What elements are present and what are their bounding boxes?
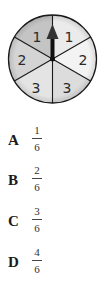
fraction-bar <box>32 219 42 220</box>
option-letter: B <box>8 172 18 189</box>
sector-label: 3 <box>63 80 72 96</box>
numerator: 1 <box>31 124 43 136</box>
option-fraction: 2 6 <box>31 164 43 193</box>
spinner-wheel-icon: 1 1 2 3 3 2 <box>0 0 105 110</box>
numerator: 4 <box>31 246 43 258</box>
denominator: 6 <box>31 181 43 193</box>
fraction-bar <box>32 138 42 139</box>
sector-label: 2 <box>79 52 88 68</box>
fraction-bar <box>32 260 42 261</box>
option-letter: D <box>8 254 19 271</box>
denominator: 6 <box>31 222 43 234</box>
sector-label: 1 <box>33 29 42 45</box>
answer-option-b[interactable]: B 2 6 <box>0 164 105 200</box>
numerator: 3 <box>31 205 43 217</box>
answer-option-c[interactable]: C 3 6 <box>0 205 105 241</box>
option-letter: A <box>8 132 19 149</box>
option-fraction: 1 6 <box>31 124 43 153</box>
sector-label: 2 <box>18 52 27 68</box>
sector-label: 3 <box>32 80 41 96</box>
option-fraction: 4 6 <box>31 246 43 275</box>
answer-option-d[interactable]: D 4 6 <box>0 246 105 282</box>
numerator: 2 <box>31 164 43 176</box>
spinner-figure: 1 1 2 3 3 2 <box>0 0 105 110</box>
option-fraction: 3 6 <box>31 205 43 234</box>
denominator: 6 <box>31 263 43 275</box>
option-letter: C <box>8 213 19 230</box>
denominator: 6 <box>31 141 43 153</box>
answer-option-a[interactable]: A 1 6 <box>0 124 105 160</box>
fraction-bar <box>32 178 42 179</box>
sector-label: 1 <box>65 29 74 45</box>
